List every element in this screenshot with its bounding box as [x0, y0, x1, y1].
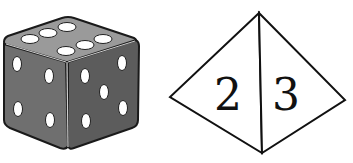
tetra-right-face-label: 3	[272, 69, 300, 120]
pip	[45, 69, 54, 84]
four-sided-die	[170, 13, 345, 153]
pip	[39, 29, 57, 38]
pip	[100, 85, 109, 100]
pip	[58, 23, 76, 32]
pip	[57, 47, 75, 56]
pip	[118, 56, 127, 71]
pip	[82, 114, 91, 129]
pip	[76, 41, 94, 50]
pip	[46, 113, 55, 128]
tetra-left-face-label: 2	[214, 69, 242, 120]
pip	[94, 35, 112, 44]
six-sided-die	[4, 17, 139, 149]
dice-figure: 2 3	[0, 0, 353, 163]
pip	[119, 101, 128, 116]
pip	[21, 35, 39, 44]
pip	[81, 69, 90, 84]
pip	[14, 102, 23, 117]
pip	[13, 57, 22, 72]
